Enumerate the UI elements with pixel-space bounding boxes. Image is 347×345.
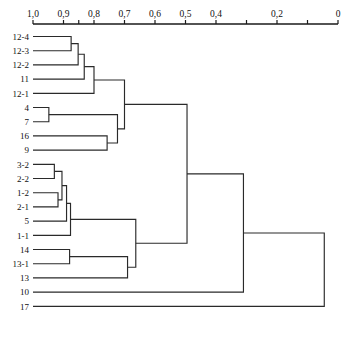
merge-link-m9 <box>33 164 54 178</box>
leaf-label-12-1: 12-1 <box>13 89 30 99</box>
axis-tick-label-5: 0,6 <box>149 9 161 19</box>
merge-link-m16 <box>71 219 136 267</box>
merge-link-m10 <box>33 193 58 207</box>
merge-link-m3 <box>33 54 84 79</box>
leaf-label-2-1: 2-1 <box>17 202 29 212</box>
axis-tick-label-4: 0,7 <box>119 9 131 19</box>
merge-link-m6 <box>33 136 107 150</box>
leaf-label-13: 13 <box>20 273 30 283</box>
merge-link-m19 <box>33 233 324 306</box>
axis-tick-label-3: 0,8 <box>88 9 100 19</box>
axis-tick-label-1: 0,9 <box>58 9 70 19</box>
leaf-label-16: 16 <box>20 131 30 141</box>
similarity-axis: 1,00,90,80,70,60,50,40,20 <box>27 9 341 24</box>
leaf-label-12-3: 12-3 <box>13 46 30 56</box>
axis-tick-label-7: 0,4 <box>210 9 222 19</box>
leaf-label-1-1: 1-1 <box>17 231 29 241</box>
leaf-label-4: 4 <box>25 103 30 113</box>
axis-tick-label-11: 0 <box>336 9 341 19</box>
leaf-label-17: 17 <box>20 302 30 312</box>
axis-tick-label-9: 0,2 <box>271 9 283 19</box>
leaf-label-12-4: 12-4 <box>13 32 30 42</box>
leaf-label-5: 5 <box>25 216 30 226</box>
dendrogram-chart: 1,00,90,80,70,60,50,40,20 12-412-312-211… <box>0 0 347 345</box>
leaf-label-7: 7 <box>25 117 30 127</box>
leaf-label-2-2: 2-2 <box>17 174 29 184</box>
merge-link-m15 <box>33 257 128 278</box>
dendrogram-links <box>33 37 324 307</box>
merge-link-m14 <box>33 250 70 264</box>
leaf-labels: 12-412-312-21112-1471693-22-21-22-151-11… <box>13 32 30 312</box>
axis-tick-label-0: 1,0 <box>27 9 39 19</box>
leaf-label-10: 10 <box>20 287 30 297</box>
leaf-label-14: 14 <box>20 245 30 255</box>
leaf-label-12-2: 12-2 <box>13 60 30 70</box>
leaf-label-9: 9 <box>25 145 30 155</box>
leaf-label-11: 11 <box>20 74 29 84</box>
dendrogram-plot-area: 1,00,90,80,70,60,50,40,20 12-412-312-211… <box>0 0 347 345</box>
merge-link-m5 <box>33 108 49 122</box>
merge-link-m17 <box>125 104 188 243</box>
merge-link-m8 <box>94 80 125 129</box>
leaf-label-13-1: 13-1 <box>13 259 30 269</box>
merge-link-m13 <box>33 203 71 235</box>
leaf-label-1-2: 1-2 <box>17 188 29 198</box>
merge-link-m4 <box>33 67 94 94</box>
axis-tick-label-6: 0,5 <box>180 9 192 19</box>
merge-link-m18 <box>33 174 243 292</box>
merge-link-m1 <box>33 37 71 51</box>
leaf-label-3-2: 3-2 <box>17 160 29 170</box>
